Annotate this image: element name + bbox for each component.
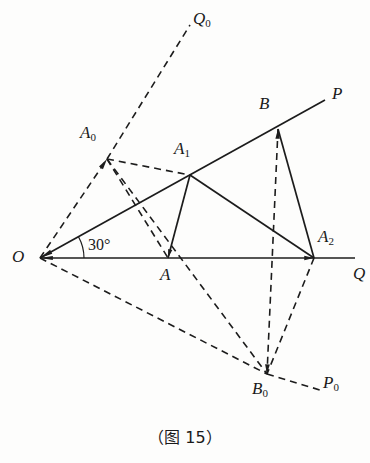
point-label-b0-subscript: 0 bbox=[262, 387, 268, 399]
point-label-a: A bbox=[160, 266, 170, 283]
dashed-lines-layer bbox=[40, 25, 320, 390]
seg-A0-A bbox=[107, 159, 168, 258]
geometry-canvas bbox=[0, 0, 370, 463]
point-label-p: P bbox=[332, 85, 342, 102]
point-label-q: Q bbox=[353, 265, 365, 282]
point-label-p0-subscript: 0 bbox=[333, 381, 339, 393]
seg-A1-A2 bbox=[190, 175, 314, 258]
point-label-a1: A1 bbox=[174, 140, 190, 157]
point-label-a1-subscript: 1 bbox=[184, 147, 190, 159]
seg-B-B0 bbox=[267, 129, 278, 374]
point-label-b0: B0 bbox=[252, 380, 268, 397]
point-label-o: O bbox=[12, 248, 24, 265]
point-label-a2-text: A bbox=[318, 227, 328, 246]
seg-A0-A1 bbox=[107, 159, 190, 175]
seg-A0-B0 bbox=[107, 159, 267, 374]
point-label-b-text: B bbox=[259, 94, 269, 113]
point-label-q0-text: Q bbox=[193, 9, 205, 28]
angle-30-arc bbox=[78, 237, 84, 258]
geometry-figure: OAA0A1A2BB0PQP0Q0 30° （图 15） bbox=[0, 0, 370, 463]
seg-O-B0 bbox=[40, 258, 267, 374]
point-label-a1-text: A bbox=[174, 139, 184, 158]
point-label-p0: P0 bbox=[323, 374, 339, 391]
figure-caption: （图 15） bbox=[0, 424, 370, 448]
point-label-a0-text: A bbox=[80, 123, 90, 142]
point-label-q0-subscript: 0 bbox=[205, 17, 211, 29]
point-label-o-text: O bbox=[12, 247, 24, 266]
angle-arc-layer bbox=[78, 237, 84, 258]
point-label-b0-text: B bbox=[252, 379, 262, 398]
point-label-p-text: P bbox=[332, 84, 342, 103]
point-label-a2-subscript: 2 bbox=[328, 235, 334, 247]
point-label-q-text: Q bbox=[353, 264, 365, 283]
point-label-q0: Q0 bbox=[193, 10, 211, 27]
point-label-p0-text: P bbox=[323, 373, 333, 392]
point-label-a-text: A bbox=[160, 265, 170, 284]
point-label-b: B bbox=[259, 95, 269, 112]
point-label-a0: A0 bbox=[80, 124, 96, 141]
point-label-a0-subscript: 0 bbox=[90, 131, 96, 143]
seg-B-A2 bbox=[278, 129, 314, 258]
angle-label: 30° bbox=[88, 236, 110, 254]
seg-A1-A bbox=[168, 175, 190, 258]
arrow-at-A bbox=[168, 249, 172, 258]
seg-B0-P0 bbox=[267, 374, 320, 390]
point-label-a2: A2 bbox=[318, 228, 334, 245]
seg-A2-B0 bbox=[267, 258, 314, 374]
